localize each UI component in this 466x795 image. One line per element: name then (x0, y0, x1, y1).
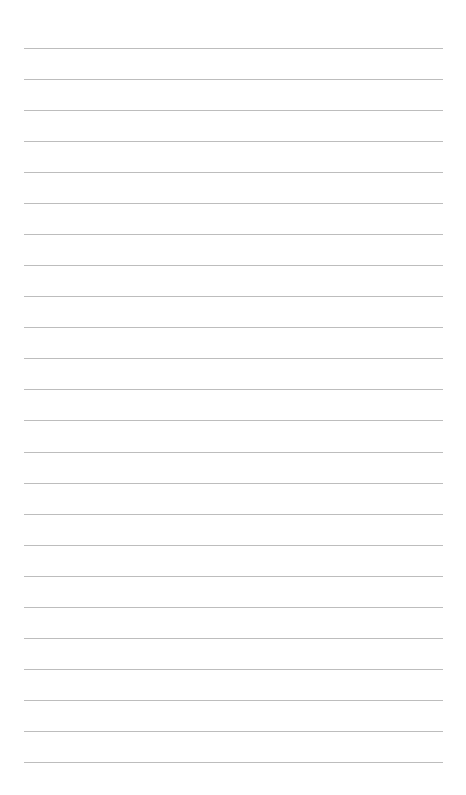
ruled-line (24, 700, 443, 701)
ruled-line (24, 483, 443, 484)
ruled-line (24, 638, 443, 639)
ruled-line (24, 296, 443, 297)
ruled-line (24, 234, 443, 235)
ruled-line (24, 48, 443, 49)
ruled-line (24, 358, 443, 359)
ruled-line (24, 452, 443, 453)
ruled-line (24, 669, 443, 670)
ruled-line (24, 79, 443, 80)
ruled-line (24, 420, 443, 421)
ruled-line (24, 607, 443, 608)
lined-paper-page (0, 0, 466, 795)
ruled-line (24, 172, 443, 173)
ruled-line (24, 265, 443, 266)
ruled-line (24, 389, 443, 390)
ruled-line (24, 514, 443, 515)
ruled-line (24, 327, 443, 328)
ruled-line (24, 576, 443, 577)
ruled-line (24, 203, 443, 204)
ruled-line (24, 141, 443, 142)
ruled-line (24, 731, 443, 732)
ruled-line (24, 545, 443, 546)
ruled-line (24, 762, 443, 763)
ruled-line (24, 110, 443, 111)
